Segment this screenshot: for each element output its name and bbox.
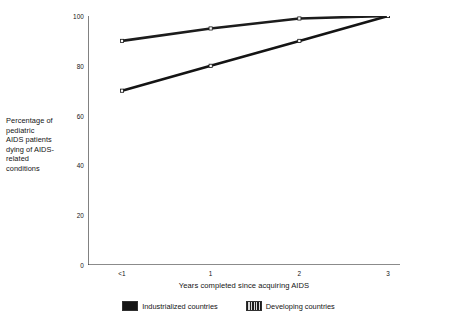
data-point-marker <box>120 89 123 92</box>
y-axis-tick-label: 100 <box>64 13 84 20</box>
line-chart-figure: Percentage of pediatric AIDS patients dy… <box>0 0 457 319</box>
data-point-marker <box>298 39 301 42</box>
y-axis-tick-label: 40 <box>64 162 84 169</box>
x-axis-tick-label: 3 <box>386 270 390 277</box>
x-axis-tick-label: 1 <box>209 270 213 277</box>
x-axis-tick-label: <1 <box>118 270 126 277</box>
data-point-marker <box>298 17 301 20</box>
y-axis-tick-label: 0 <box>64 262 84 269</box>
x-axis-tick-label: 2 <box>298 270 302 277</box>
data-point-marker <box>209 64 212 67</box>
y-axis-tick-label: 60 <box>64 112 84 119</box>
legend-label: Developing countries <box>266 302 335 311</box>
legend-label: Industrialized countries <box>142 302 218 311</box>
y-axis-tick-labels: 020406080100 <box>62 16 84 265</box>
chart-legend: Industrialized countriesDeveloping count… <box>0 301 457 311</box>
legend-item: Developing countries <box>246 301 335 311</box>
y-axis-tick-label: 80 <box>64 62 84 69</box>
plot-area <box>88 16 400 265</box>
data-point-marker <box>120 39 123 42</box>
plot-svg <box>88 16 400 265</box>
x-axis-title: Years completed since acquiring AIDS <box>88 281 400 290</box>
legend-swatch-hatched <box>246 301 262 311</box>
y-axis-tick-label: 20 <box>64 212 84 219</box>
series-line <box>122 16 388 91</box>
data-point-marker <box>209 27 212 30</box>
data-series-group <box>120 16 389 92</box>
axis-lines <box>88 16 400 265</box>
legend-swatch-solid <box>122 301 138 311</box>
data-point-marker <box>386 16 389 18</box>
legend-item: Industrialized countries <box>122 301 218 311</box>
